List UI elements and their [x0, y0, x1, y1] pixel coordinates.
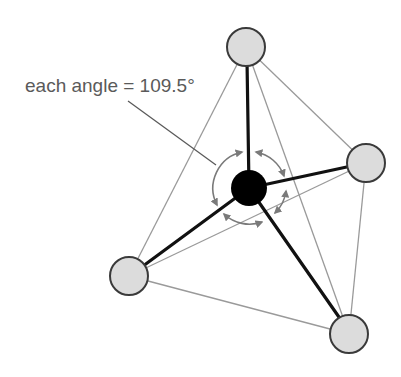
edge-right-bottom: [349, 163, 366, 334]
tetrahedral-molecule-diagram: each angle = 109.5°: [0, 0, 401, 377]
angle-arc-top-right: [256, 152, 284, 176]
edge-top-right: [246, 47, 366, 163]
central-atom: [231, 170, 267, 206]
outer-atom-top: [227, 28, 265, 66]
bond-bottom: [249, 188, 341, 320]
angle-label: each angle = 109.5°: [25, 75, 195, 96]
label-leader-line: [128, 101, 216, 165]
outer-atom-right: [347, 144, 385, 182]
outer-atom-left: [110, 257, 148, 295]
outer-atom-bottom: [330, 315, 368, 353]
bond-top: [247, 60, 249, 188]
bond-left: [139, 188, 249, 269]
